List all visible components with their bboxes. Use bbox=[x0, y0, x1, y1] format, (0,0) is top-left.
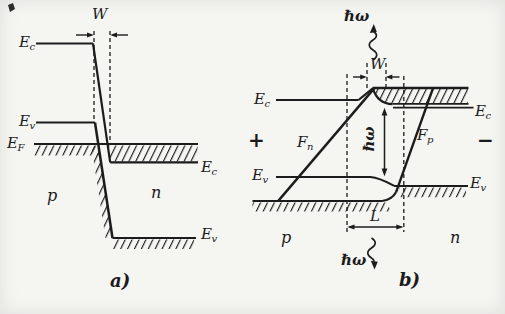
hatch-electrons-ec-to-ef-n-side bbox=[108, 146, 198, 162]
energy-band-diagram-figure: Ec Ev EF Ec Ev W p n a) ℏω W Ec Ec Ev Ev… bbox=[0, 0, 505, 314]
label-photon-mid-b: ℏω bbox=[362, 125, 378, 153]
label-ev-left-a: Ev bbox=[19, 114, 35, 131]
label-ev-right-b: Ev bbox=[470, 176, 486, 193]
fp-junction-curl-b bbox=[382, 192, 396, 201]
label-ev-right-a: Ev bbox=[201, 227, 217, 244]
label-p-region-b: p bbox=[281, 230, 291, 246]
label-p-region-a: p bbox=[47, 188, 57, 204]
hatch-filled-valence-n-side bbox=[113, 240, 194, 250]
label-active-length-b: L bbox=[370, 209, 380, 224]
bias-plus-terminal: + bbox=[248, 130, 265, 150]
label-photon-top-b: ℏω bbox=[344, 9, 369, 24]
bias-minus-terminal: − bbox=[477, 130, 494, 150]
label-n-region-b: n bbox=[450, 230, 460, 246]
panel-a-width-arrows bbox=[76, 33, 128, 38]
photon-energy-arrow bbox=[382, 108, 388, 176]
hatch-filled-states-below-ef-p-side bbox=[34, 146, 100, 156]
label-ec-right-a: Ec bbox=[201, 160, 217, 177]
panel-a-hatching bbox=[34, 146, 198, 250]
label-ev-left-b: Ev bbox=[252, 168, 268, 185]
scan-artifact bbox=[8, 3, 15, 12]
label-ec-right-b: Ec bbox=[475, 104, 491, 121]
label-ec-left-a: Ec bbox=[19, 35, 35, 52]
caption-panel-b: b) bbox=[399, 271, 420, 289]
label-n-region-a: n bbox=[151, 185, 161, 201]
label-ec-left-b: Ec bbox=[254, 92, 270, 109]
hatch-filled-valence-below-ev-n-side bbox=[399, 188, 466, 198]
caption-panel-a: a) bbox=[110, 272, 130, 290]
label-fp-quasi-fermi: Fp bbox=[417, 128, 433, 145]
label-depletion-width-b: W bbox=[370, 57, 385, 72]
label-depletion-width-a: W bbox=[92, 7, 107, 22]
hatch-inverted-electrons-ec-to-fn bbox=[373, 89, 468, 104]
label-ef-a: EF bbox=[7, 136, 24, 153]
panel-b-width-arrows bbox=[353, 75, 400, 80]
label-photon-bottom-b: ℏω bbox=[341, 253, 366, 268]
label-fn-quasi-fermi: Fn bbox=[297, 135, 313, 152]
panel-a-bands bbox=[34, 44, 198, 239]
panel-b-length-arrows bbox=[347, 224, 403, 229]
band-diagram-canvas bbox=[0, 0, 505, 314]
photon-wave-bottom bbox=[368, 238, 378, 270]
